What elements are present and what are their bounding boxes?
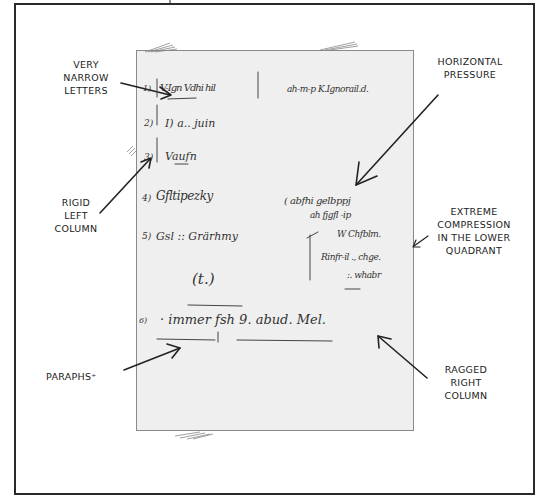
handwriting-strokes <box>157 72 360 342</box>
hatch-marks <box>127 42 358 439</box>
arrow-paraphs <box>124 344 180 370</box>
arrow-extreme-compression <box>413 236 428 247</box>
annotation-arrows <box>0 0 551 503</box>
arrow-horizontal-pressure <box>356 95 438 185</box>
arrow-rigid-left-column <box>100 158 151 213</box>
arrow-very-narrow-letters <box>121 83 171 99</box>
arrow-ragged-right-column <box>378 336 427 378</box>
